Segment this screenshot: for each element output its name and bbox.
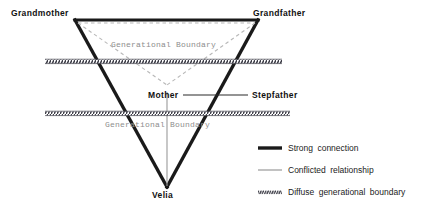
node-label-stepfather: Stepfather	[252, 90, 298, 100]
node-label-velia: Velia	[152, 190, 173, 200]
diagram-canvas	[0, 0, 424, 210]
boundary-lower-hatch	[45, 112, 290, 116]
genogram-diagram: Grandmother Grandfather Mother Stepfathe…	[0, 0, 424, 210]
legend-label-conflicted-relationship: Conflicted relationship	[288, 165, 374, 175]
node-label-grandfather: Grandfather	[253, 8, 306, 18]
node-label-mother: Mother	[148, 90, 178, 100]
legend-swatch-diffuse-generational-boundary	[258, 191, 282, 195]
legend-label-strong-connection: Strong connection	[288, 143, 359, 153]
boundary-label-upper: Generational Boundary	[111, 40, 216, 49]
boundary-lower-line	[45, 111, 290, 115]
legend-label-diffuse-generational-boundary: Diffuse generational boundary	[288, 187, 405, 197]
edge-dashed-grandmother-mother	[78, 23, 167, 85]
boundary-label-lower: Generational Boundary	[105, 120, 210, 129]
boundary-upper-line	[45, 59, 282, 63]
boundary-upper-hatch	[45, 60, 282, 64]
node-label-grandmother: Grandmother	[11, 8, 69, 18]
edge-dashed-grandfather-mother	[167, 23, 255, 85]
legend-swatches	[258, 148, 282, 194]
